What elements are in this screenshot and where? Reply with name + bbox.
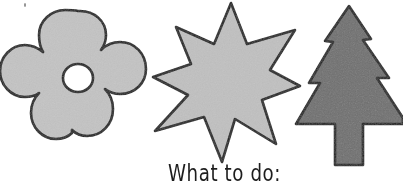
worksheet-page: What to do: (0, 0, 403, 184)
shapes-canvas (0, 0, 403, 184)
star-outline-path (153, 3, 300, 162)
caption-what-to-do: What to do: (168, 160, 281, 184)
flower-shape (0, 10, 146, 139)
star-shape (153, 3, 300, 162)
flower-outline-path (0, 10, 146, 139)
tree-shape (296, 6, 403, 165)
tree-outline-path (296, 6, 403, 165)
